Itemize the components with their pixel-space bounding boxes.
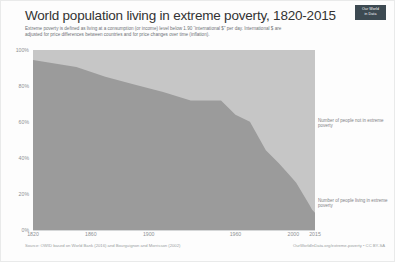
chart-header: World population living in extreme pover… [25, 8, 385, 37]
chart-plot-area [33, 50, 315, 230]
footer-source: Source: OWID based on World Bank (2016) … [25, 243, 180, 248]
y-axis-tick: 100% [16, 47, 29, 53]
y-axis-tick: 60% [19, 119, 29, 125]
x-axis-tick: 2015 [309, 231, 321, 237]
x-axis-tick: 2000 [288, 231, 300, 237]
chart-footer: Source: OWID based on World Bank (2016) … [25, 243, 385, 248]
y-axis-tick: 40% [19, 155, 29, 161]
y-axis-tick: 80% [19, 83, 29, 89]
x-axis-tick: 1900 [143, 231, 155, 237]
y-axis-tick: 20% [19, 191, 29, 197]
x-axis: 182018601900196020002015 [33, 231, 323, 241]
x-axis-tick: 1820 [27, 231, 39, 237]
footer-link[interactable]: OurWorldInData.org/extreme-poverty • CC … [293, 243, 385, 248]
chart-page: World population living in extreme pover… [0, 0, 395, 262]
x-axis-tick: 1860 [85, 231, 97, 237]
x-axis-tick: 1960 [230, 231, 242, 237]
y-axis: 0%20%40%60%80%100% [0, 44, 31, 236]
annotation-in-poverty: Number of people living in extreme pover… [318, 198, 390, 209]
annotation-not-in-poverty: Number of people not in extreme poverty [318, 118, 390, 129]
chart-subtitle: Extreme poverty is defined as living at … [25, 26, 287, 37]
page-title: World population living in extreme pover… [25, 8, 385, 23]
area-chart-svg [33, 50, 315, 230]
owid-logo-line2: in Data [355, 12, 386, 17]
owid-logo[interactable]: Our World in Data [355, 5, 386, 20]
